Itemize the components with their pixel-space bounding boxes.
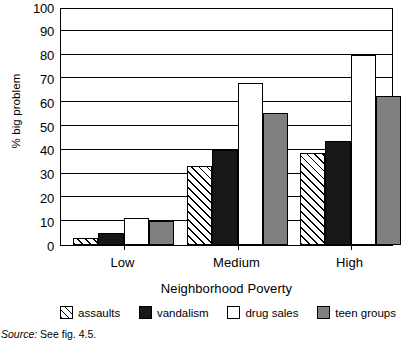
legend-swatch-teengroups-icon	[317, 306, 330, 319]
bar-vandalism-low	[98, 233, 123, 245]
bar-teengroups-medium	[263, 113, 288, 245]
legend-item-vandalism[interactable]: vandalism	[139, 306, 209, 319]
plot-area	[60, 8, 393, 246]
y-axis-tick-label: 30	[28, 168, 54, 181]
x-axis-category-high: High	[305, 255, 395, 270]
y-axis-label: % big problem	[10, 51, 22, 171]
legend-label: assaults	[78, 307, 120, 319]
bar-group-medium	[187, 9, 288, 245]
legend-item-drugsales[interactable]: drug sales	[227, 306, 298, 319]
y-axis-tick-label: 90	[28, 25, 54, 38]
bar-teengroups-high	[376, 96, 401, 245]
x-axis-title: Neighborhood Poverty	[60, 281, 393, 296]
legend-item-assaults[interactable]: assaults	[60, 306, 120, 319]
y-axis-tick-labels: 0102030405060708090100	[22, 0, 54, 250]
x-axis-tick	[238, 245, 239, 250]
y-axis-tick-label: 40	[28, 144, 54, 157]
bar-drugsales-high	[351, 55, 376, 245]
bar-group-high	[300, 9, 401, 245]
legend-item-teengroups[interactable]: teen groups	[317, 306, 396, 319]
bar-vandalism-medium	[212, 150, 237, 245]
x-axis-tick	[351, 245, 352, 250]
y-axis-tick-label: 100	[28, 2, 54, 15]
y-axis-tick-label: 0	[28, 240, 54, 253]
source-note: Source: See fig. 4.5.	[1, 328, 96, 340]
y-axis-tick-label: 70	[28, 73, 54, 86]
y-axis-tick-label: 20	[28, 192, 54, 205]
legend-swatch-vandalism-icon	[139, 306, 152, 319]
bar-vandalism-high	[325, 141, 350, 245]
bar-series-container	[61, 9, 392, 245]
legend-label: drug sales	[245, 307, 298, 319]
y-axis-tick-label: 50	[28, 121, 54, 134]
x-axis-category-medium: Medium	[192, 255, 282, 270]
bar-group-low	[73, 9, 174, 245]
x-axis-tick	[124, 245, 125, 250]
x-axis-category-low: Low	[78, 255, 168, 270]
legend-label: vandalism	[157, 307, 209, 319]
legend-label: teen groups	[335, 307, 396, 319]
y-axis-tick-label: 80	[28, 49, 54, 62]
legend-swatch-drugsales-icon	[227, 306, 240, 319]
bar-assaults-low	[73, 238, 98, 245]
bar-assaults-high	[300, 153, 325, 245]
y-axis-tick-label: 10	[28, 216, 54, 229]
bar-assaults-medium	[187, 166, 212, 245]
chart-legend: assaultsvandalismdrug salesteen groups	[60, 306, 396, 319]
source-text: See fig. 4.5.	[40, 328, 96, 340]
legend-swatch-assaults-icon	[60, 306, 73, 319]
bar-teengroups-low	[149, 221, 174, 245]
y-axis-tick-label: 60	[28, 97, 54, 110]
source-label: Source:	[1, 328, 37, 340]
bar-drugsales-medium	[238, 83, 263, 245]
bar-drugsales-low	[124, 218, 149, 245]
